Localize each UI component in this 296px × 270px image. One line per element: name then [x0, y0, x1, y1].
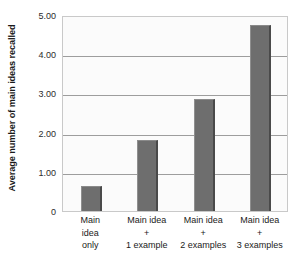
- bar-chart-figure: Average number of main ideas recalled 01…: [0, 0, 296, 270]
- y-tick-label: 0: [51, 207, 56, 217]
- bar-slot: [250, 17, 271, 211]
- x-tick-label-line: Main idea: [119, 214, 176, 227]
- bars-layer: [63, 17, 287, 211]
- x-tick-label-line: 2 examples: [175, 239, 232, 252]
- x-tick-label-line: idea: [62, 227, 119, 240]
- x-tick-label: Main idea+1 example: [119, 214, 176, 252]
- x-tick-label-line: Main idea: [175, 214, 232, 227]
- bar-slot: [194, 17, 215, 211]
- y-tick-label: 1.00: [38, 168, 56, 178]
- y-tick-label: 5.00: [38, 11, 56, 21]
- bar-slot: [137, 17, 158, 211]
- x-tick-label: Main idea+2 examples: [175, 214, 232, 252]
- x-tick-label-line: Main idea: [232, 214, 289, 227]
- x-tick-label: Main idea+3 examples: [232, 214, 289, 252]
- x-tick-label-line: Main: [62, 214, 119, 227]
- bar[interactable]: [250, 25, 271, 211]
- y-axis-title-text: Average number of main ideas recalled: [6, 24, 16, 191]
- x-tick-label: Mainideaonly: [62, 214, 119, 252]
- y-tick-label: 3.00: [38, 89, 56, 99]
- x-tick-label-line: only: [62, 239, 119, 252]
- y-tick-label: 2.00: [38, 129, 56, 139]
- bar-slot: [81, 17, 102, 211]
- x-tick-label-line: +: [232, 227, 289, 240]
- x-tick-label-line: +: [119, 227, 176, 240]
- x-tick-label-line: +: [175, 227, 232, 240]
- x-axis-tick-labels: MainideaonlyMain idea+1 exampleMain idea…: [62, 214, 288, 270]
- plot-area: [62, 16, 288, 212]
- bar[interactable]: [194, 99, 215, 211]
- y-axis-tick-labels: 01.002.003.004.005.00: [22, 0, 60, 220]
- bar[interactable]: [81, 186, 102, 211]
- bar[interactable]: [137, 140, 158, 211]
- x-tick-label-line: 1 example: [119, 239, 176, 252]
- y-axis-title: Average number of main ideas recalled: [0, 0, 22, 215]
- y-tick-label: 4.00: [38, 50, 56, 60]
- x-tick-label-line: 3 examples: [232, 239, 289, 252]
